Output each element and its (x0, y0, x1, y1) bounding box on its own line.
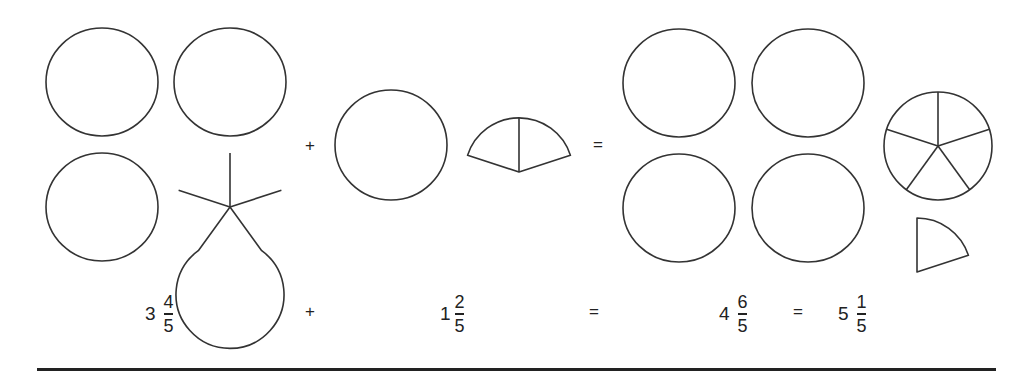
denominator: 5 (738, 317, 748, 335)
whole-circle (623, 29, 735, 137)
right-group (623, 29, 992, 272)
fraction: 1 5 (857, 293, 867, 335)
bottom-divider (37, 368, 996, 371)
equals-sign: = (589, 303, 599, 320)
fraction-bar (455, 313, 464, 315)
numerator: 1 (857, 293, 867, 312)
whole-part: 3 (145, 304, 156, 323)
mixed-number-simplified: 5 1 5 (838, 293, 867, 335)
whole-circle (46, 153, 158, 261)
two-fifths-wedge (468, 118, 571, 172)
whole-circle (174, 28, 286, 136)
denominator: 5 (164, 317, 174, 335)
four-fifths-circle (176, 153, 284, 348)
fraction: 2 5 (455, 293, 465, 335)
one-fifth-wedge (917, 218, 968, 272)
whole-circle (623, 154, 735, 262)
denominator: 5 (857, 317, 867, 335)
equals-sign: = (593, 136, 603, 153)
whole-circle (335, 90, 447, 200)
whole-part: 5 (838, 304, 849, 323)
fraction-bar (857, 313, 866, 315)
five-fifths-circle (884, 92, 992, 200)
numerator: 4 (164, 293, 174, 312)
whole-circle (46, 28, 158, 136)
fraction: 6 5 (738, 293, 748, 335)
fraction-bar (164, 313, 173, 315)
plus-sign: + (305, 303, 315, 320)
mixed-number-term2: 1 2 5 (440, 293, 465, 335)
equals-sign: = (793, 303, 803, 320)
whole-part: 4 (719, 304, 730, 323)
middle-group (335, 90, 570, 200)
whole-circle (752, 29, 864, 137)
whole-part: 1 (440, 304, 451, 323)
denominator: 5 (455, 317, 465, 335)
numerator: 6 (738, 293, 748, 312)
fraction-bar (738, 313, 747, 315)
fraction: 4 5 (164, 293, 174, 335)
mixed-number-term1: 3 4 5 (145, 293, 174, 335)
numerator: 2 (455, 293, 465, 312)
mixed-number-result: 4 6 5 (719, 293, 748, 335)
plus-sign: + (305, 137, 315, 154)
whole-circle (752, 154, 864, 262)
